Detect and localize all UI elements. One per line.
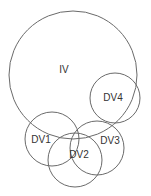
label-dv2: DV2 xyxy=(69,149,89,160)
circle-dv2-shape xyxy=(48,133,102,187)
circle-iv: IV xyxy=(9,11,137,139)
label-dv4: DV4 xyxy=(103,92,123,103)
label-dv3: DV3 xyxy=(100,135,120,146)
circle-iv-shape xyxy=(9,11,137,139)
label-iv: IV xyxy=(59,64,69,75)
label-dv1: DV1 xyxy=(31,134,51,145)
circle-dv2: DV2 xyxy=(48,133,102,187)
venn-diagram: IV DV4 DV1 DV3 DV2 xyxy=(0,0,151,196)
